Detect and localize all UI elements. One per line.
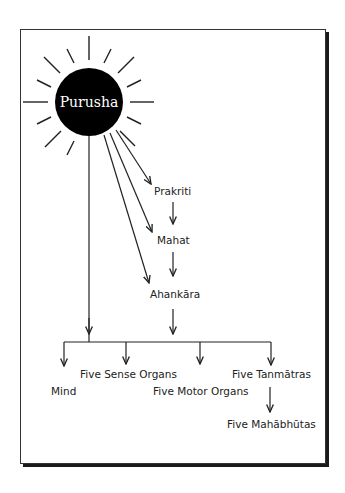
mahat-label: Mahat — [157, 234, 190, 246]
mind-label: Mind — [51, 385, 76, 397]
sense-organs-label: Five Sense Organs — [80, 368, 177, 380]
purusha-label: Purusha — [60, 94, 119, 110]
mahabhutas-label: Five Mahābhūtas — [227, 418, 316, 430]
motor-organs-label: Five Motor Organs — [153, 385, 249, 397]
prakriti-label: Prakriti — [154, 185, 191, 197]
tanmatras-label: Five Tanmātras — [232, 368, 311, 380]
ahankara-label: Ahankāra — [150, 288, 200, 300]
